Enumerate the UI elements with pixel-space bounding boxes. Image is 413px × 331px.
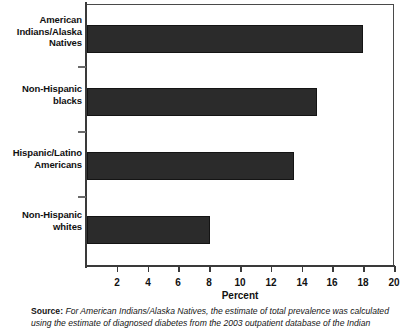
bar-chart-figure: American Indians/Alaska Natives Non-Hisp… xyxy=(0,0,413,331)
bar-non-hispanic-blacks xyxy=(87,88,317,116)
x-axis-tick xyxy=(240,266,242,272)
bar-non-hispanic-whites xyxy=(87,216,210,244)
x-axis-tick-label-6: 6 xyxy=(166,277,190,288)
x-axis-tick-label-18: 18 xyxy=(351,277,375,288)
x-axis-tick-label-4: 4 xyxy=(136,277,160,288)
x-axis-tick xyxy=(332,266,334,272)
x-axis-tick xyxy=(302,266,304,272)
x-axis-tick-label-20: 20 xyxy=(382,277,406,288)
x-axis-tick xyxy=(178,266,180,272)
x-axis-tick xyxy=(394,266,396,272)
source-note: Source: For American Indians/Alaska Nati… xyxy=(31,306,406,329)
x-axis-tick xyxy=(117,266,119,272)
x-axis-tick xyxy=(209,266,211,272)
x-axis-tick-label-16: 16 xyxy=(320,277,344,288)
x-axis-tick xyxy=(148,266,150,272)
x-axis-tick xyxy=(363,266,365,272)
source-text: For American Indians/Alaska Natives, the… xyxy=(31,306,389,328)
x-axis-tick-label-10: 10 xyxy=(228,277,252,288)
x-axis-tick-label-12: 12 xyxy=(259,277,283,288)
bar-hispanic-latino-americans xyxy=(87,152,294,180)
x-axis-tick-label-8: 8 xyxy=(197,277,221,288)
source-label: Source: xyxy=(31,306,63,316)
x-axis-tick-label-14: 14 xyxy=(290,277,314,288)
x-axis-tick-label-2: 2 xyxy=(105,277,129,288)
bar-american-indians-alaska-natives xyxy=(87,25,363,53)
x-axis-title: Percent xyxy=(86,290,394,301)
x-axis-tick xyxy=(271,266,273,272)
